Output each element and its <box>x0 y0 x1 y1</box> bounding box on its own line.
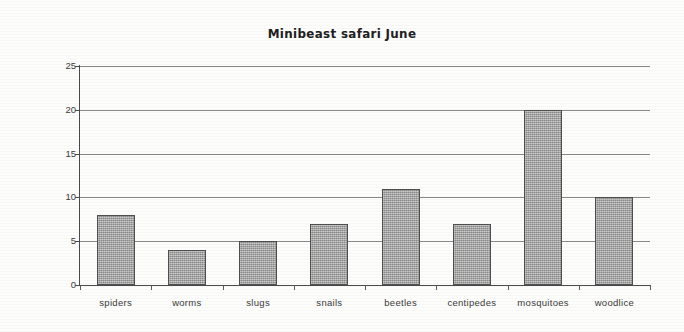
bar-centipedes[interactable] <box>453 224 491 285</box>
chart-title: Minibeast safari June <box>17 26 667 41</box>
bar-woodlice[interactable] <box>595 197 633 285</box>
bar-slugs[interactable] <box>239 241 277 285</box>
bar-slot-mosquitoes <box>508 66 579 285</box>
bar-beetles[interactable] <box>382 189 420 285</box>
y-tick-label-10: 10 <box>48 191 76 202</box>
x-tick-mark-4 <box>365 285 366 290</box>
x-axis-tick-labels: spiderswormsslugssnailsbeetlescentipedes… <box>80 285 650 331</box>
y-tick-mark-10 <box>75 197 80 198</box>
y-tick-label-25: 25 <box>48 60 76 71</box>
x-tick-mark-end <box>650 285 651 290</box>
x-category-label-mosquitoes: mosquitoes <box>508 297 579 308</box>
x-category-label-spiders: spiders <box>80 297 151 308</box>
x-category-label-centipedes: centipedes <box>436 297 507 308</box>
y-tick-label-5: 5 <box>48 235 76 246</box>
bar-mosquitoes[interactable] <box>524 110 562 285</box>
x-tick-mark-2 <box>223 285 224 290</box>
y-axis-tick-labels: 0510152025 <box>48 66 76 285</box>
x-tick-mark-3 <box>294 285 295 290</box>
bar-spiders[interactable] <box>97 215 135 285</box>
y-tick-mark-25 <box>75 66 80 67</box>
x-category-label-beetles: beetles <box>365 297 436 308</box>
x-category-label-worms: worms <box>151 297 222 308</box>
plot-area <box>80 66 650 285</box>
y-tick-mark-5 <box>75 241 80 242</box>
bar-slot-spiders <box>80 66 151 285</box>
y-tick-label-20: 20 <box>48 104 76 115</box>
bar-slot-beetles <box>365 66 436 285</box>
y-tick-mark-15 <box>75 154 80 155</box>
bar-slot-slugs <box>223 66 294 285</box>
bar-worms[interactable] <box>168 250 206 285</box>
x-tick-mark-0 <box>80 285 81 290</box>
bar-snails[interactable] <box>310 224 348 285</box>
x-category-label-slugs: slugs <box>223 297 294 308</box>
bar-chart-figure: Minibeast safari June Number found 05101… <box>0 0 684 332</box>
x-tick-mark-6 <box>508 285 509 290</box>
bar-slot-snails <box>294 66 365 285</box>
y-tick-label-15: 15 <box>48 148 76 159</box>
x-tick-mark-1 <box>151 285 152 290</box>
y-tick-label-0: 0 <box>48 279 76 290</box>
x-tick-mark-5 <box>436 285 437 290</box>
bar-slot-woodlice <box>579 66 650 285</box>
bar-slot-worms <box>151 66 222 285</box>
bar-slot-centipedes <box>436 66 507 285</box>
y-tick-mark-20 <box>75 110 80 111</box>
bar-series <box>80 66 650 285</box>
x-category-label-snails: snails <box>294 297 365 308</box>
x-tick-mark-7 <box>579 285 580 290</box>
x-category-label-woodlice: woodlice <box>579 297 650 308</box>
